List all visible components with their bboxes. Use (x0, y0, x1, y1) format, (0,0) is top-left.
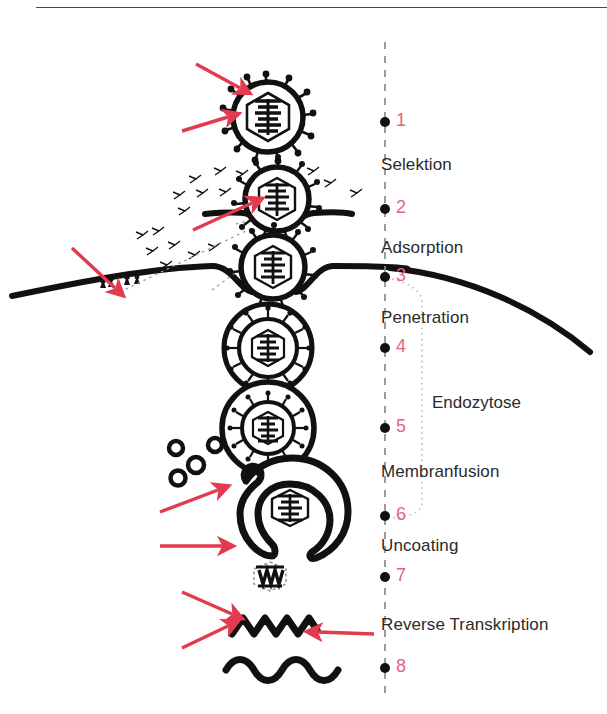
stage-label-membranfusion: Membranfusion (381, 462, 499, 482)
stage-label-selektion: Selektion (381, 155, 452, 175)
released-envelope-fragments (169, 438, 222, 486)
stage-number-5: 5 (396, 416, 406, 437)
nucleic-acid-strands-stage-8 (226, 618, 338, 681)
virion-stage-3 (227, 222, 318, 311)
stage-number-1: 1 (396, 110, 406, 131)
stage-number-6: 6 (396, 504, 406, 525)
stage-label-adsorption: Adsorption (381, 238, 463, 258)
diagram-canvas (0, 0, 607, 714)
stage-number-8: 8 (396, 656, 406, 677)
stage-number-4: 4 (396, 336, 406, 357)
virion-stage-2 (231, 154, 322, 243)
stage-label-penetration: Penetration (381, 308, 469, 328)
bare-capsid-stage-7 (254, 562, 286, 591)
stage-label-uncoating: Uncoating (381, 536, 458, 556)
virus-infection-diagram: 1 2 3 4 5 6 7 8 Selektion Adsorption Pen… (0, 0, 607, 714)
stage-number-3: 3 (396, 265, 406, 286)
virion-stage-4 (224, 304, 312, 392)
stage-label-reverse-transkription: Reverse Transkription (381, 615, 548, 635)
stage-number-2: 2 (396, 197, 406, 218)
stage-number-7: 7 (396, 565, 406, 586)
bracket-label-endozytose: Endozytose (432, 393, 521, 413)
